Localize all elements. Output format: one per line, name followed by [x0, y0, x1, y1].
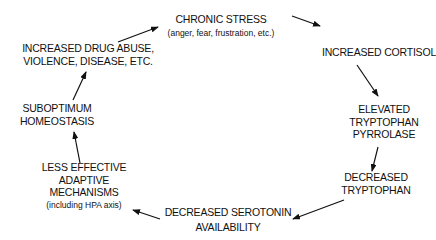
arrow-adaptive-to-homeostasis — [74, 132, 80, 163]
node-decreased-tryptophan: DECREASED TRYPTOPHAN — [341, 171, 410, 196]
node-increased-drug-abuse: INCREASED DRUG ABUSE, VIOLENCE, DISEASE,… — [22, 42, 154, 67]
node-elevated-tryptophan-pyrrolase: ELEVATED TRYPTOPHAN PYRROLASE — [349, 103, 418, 141]
arrow-pyrrolase-to-trp — [372, 147, 378, 171]
node-sublabel: (anger, fear, frustration, etc.) — [168, 27, 275, 39]
node-label: LESS EFFECTIVE — [42, 161, 127, 174]
node-sublabel: (including HPA axis) — [42, 199, 127, 211]
node-less-effective-adaptive: LESS EFFECTIVE ADAPTIVE MECHANISMS (incl… — [42, 161, 127, 211]
arrow-drug-to-stress — [118, 27, 158, 42]
node-increased-cortisol: INCREASED CORTISOL — [322, 46, 436, 59]
node-label: CHRONIC STRESS — [168, 13, 275, 26]
node-label: SUBOPTIMUM — [20, 102, 94, 115]
arrow-stress-to-cortisol — [292, 16, 320, 26]
node-decreased-serotonin: DECREASED SEROTONIN AVAILABILITY — [165, 206, 292, 233]
node-label: TRYPTOPHAN — [341, 184, 410, 197]
node-label: HOMEOSTASIS — [20, 115, 94, 128]
node-label: ELEVATED — [349, 103, 418, 116]
node-label: PYRROLASE — [349, 128, 418, 141]
node-label: DECREASED — [341, 171, 410, 184]
node-label: INCREASED DRUG ABUSE, — [22, 42, 154, 55]
node-suboptimum-homeostasis: SUBOPTIMUM HOMEOSTASIS — [20, 102, 94, 127]
arrow-homeostasis-to-drug — [73, 72, 86, 100]
node-label: ADAPTIVE — [42, 174, 127, 187]
arrow-trp-to-serotonin — [293, 200, 344, 219]
arrow-cortisol-to-pyrrolase — [357, 65, 378, 96]
node-label: AVAILABILITY — [165, 221, 292, 234]
node-label: MECHANISMS — [42, 186, 127, 199]
node-label: TRYPTOPHAN — [349, 116, 418, 129]
arrow-serotonin-to-adaptive — [133, 210, 160, 219]
node-label: VIOLENCE, DISEASE, ETC. — [22, 55, 154, 68]
node-label: INCREASED CORTISOL — [322, 46, 436, 59]
node-label: DECREASED SEROTONIN — [165, 206, 292, 219]
node-chronic-stress: CHRONIC STRESS (anger, fear, frustration… — [168, 13, 275, 39]
